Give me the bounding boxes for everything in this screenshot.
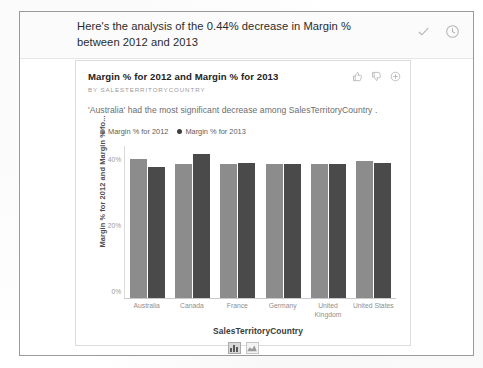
bar[interactable]	[193, 154, 210, 298]
legend-label-2012: Margin % for 2012	[108, 127, 168, 136]
bar[interactable]	[238, 163, 255, 298]
bar[interactable]	[175, 164, 192, 298]
legend-item-2013[interactable]: Margin % for 2013	[177, 127, 245, 136]
bar[interactable]	[311, 164, 328, 298]
bar-group	[125, 146, 170, 298]
chart-legend: Margin % for 2012 Margin % for 2013	[76, 115, 410, 136]
x-axis-title: SalesTerritoryCountry	[76, 326, 410, 336]
insight-banner: Here's the analysis of the 0.44% decreas…	[20, 12, 473, 59]
bar[interactable]	[374, 163, 391, 298]
bar[interactable]	[284, 164, 301, 298]
bar-group	[215, 146, 260, 298]
y-axis-title: Margin % for 2012 and Margin % fo...	[98, 118, 107, 248]
thumbs-up-icon[interactable]	[352, 71, 363, 82]
bar-group	[261, 146, 306, 298]
insight-card: Margin % for 2012 and Margin % for 2013 …	[75, 60, 411, 346]
clock-icon[interactable]	[445, 24, 460, 39]
card-header: Margin % for 2012 and Margin % for 2013 …	[76, 61, 410, 99]
y-axis-tick: 0%	[111, 288, 121, 295]
x-axis-label: Australia	[124, 299, 169, 323]
y-axis-tick: 20%	[108, 221, 121, 228]
bar-group	[351, 146, 396, 298]
bar[interactable]	[220, 164, 237, 298]
legend-label-2013: Margin % for 2013	[185, 127, 245, 136]
bar-group	[170, 146, 215, 298]
x-axis-label: France	[215, 299, 260, 323]
legend-item-2012[interactable]: Margin % for 2012	[100, 127, 168, 136]
insight-banner-actions	[416, 24, 460, 39]
y-axis-tick: 40%	[108, 155, 121, 162]
bar[interactable]	[356, 161, 373, 298]
x-axis-label: United States	[351, 299, 396, 323]
chart-type-toggles	[76, 342, 410, 354]
x-axis-label: Canada	[169, 299, 214, 323]
area-chart-toggle[interactable]	[246, 342, 259, 354]
x-axis-label: Germany	[260, 299, 305, 323]
bar[interactable]	[148, 167, 165, 298]
legend-swatch-2013	[177, 129, 182, 134]
chart-area: Margin % for 2012 and Margin % fo... 0%2…	[82, 140, 400, 325]
card-actions	[352, 71, 401, 82]
bar-group	[306, 146, 351, 298]
card-description: 'Australia' had the most significant dec…	[76, 99, 410, 115]
insight-window: Here's the analysis of the 0.44% decreas…	[19, 11, 474, 356]
bar-groups	[125, 146, 396, 298]
plus-circle-icon[interactable]	[390, 71, 401, 82]
x-axis-label: United Kingdom	[305, 299, 350, 323]
x-axis-labels: AustraliaCanadaFranceGermanyUnited Kingd…	[124, 299, 396, 323]
bar[interactable]	[266, 164, 283, 298]
bar[interactable]	[130, 159, 147, 298]
thumbs-down-icon[interactable]	[371, 71, 382, 82]
card-subtitle: BY SALESTERRITORYCOUNTRY	[88, 85, 398, 94]
bar-chart-toggle[interactable]	[228, 342, 241, 354]
insight-banner-text: Here's the analysis of the 0.44% decreas…	[77, 19, 362, 50]
check-icon[interactable]	[416, 24, 431, 39]
bar[interactable]	[329, 164, 346, 298]
plot-area: 0%20%40%	[124, 146, 396, 299]
